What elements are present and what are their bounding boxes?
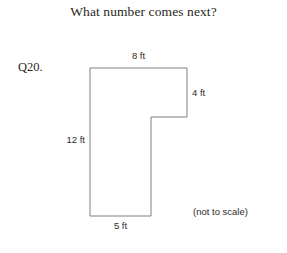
dimension-label-bottom: 5 ft: [90, 220, 151, 231]
worksheet-page: What number comes next? Q20. 8 ft 4 ft 1…: [0, 0, 287, 253]
dimension-label-right: 4 ft: [192, 87, 205, 98]
l-shape-outline: [90, 68, 187, 216]
dimension-label-top: 8 ft: [90, 50, 187, 61]
dimension-label-left: 12 ft: [22, 134, 85, 145]
not-to-scale-note: (not to scale): [193, 206, 248, 217]
